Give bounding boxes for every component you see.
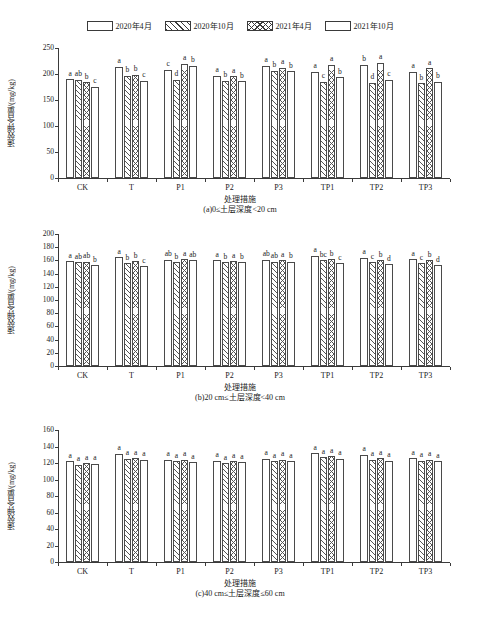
x-axis-category-p2: P2: [208, 567, 252, 576]
y-axis-tick-label: 140: [24, 270, 54, 278]
significance-label: b: [357, 55, 371, 63]
bar-p3-s2: [279, 68, 287, 178]
bar-ck-s0: [66, 261, 74, 366]
bar-p2-s3: [238, 262, 246, 366]
significance-label: a: [423, 59, 437, 67]
bar-p1-s0: [164, 460, 172, 562]
x-axis-category-tp1: TP1: [306, 371, 350, 380]
bar-p3-s2: [279, 460, 287, 562]
bar-p3-s0: [262, 260, 270, 366]
bar-tp1-s0: [311, 72, 319, 178]
legend-swatch-blank-2020-04: [87, 21, 113, 31]
significance-label: ab: [186, 251, 200, 259]
figure-page: 2020年4月 2020年10月 2021年4月 2021年10月 速效钾含量/…: [0, 0, 480, 619]
legend-label-2: 2021年4月: [276, 20, 312, 31]
y-axis-tick-label: 50: [24, 148, 54, 156]
y-axis-tick-label: 20: [24, 349, 54, 357]
bar-p3-s2: [279, 260, 287, 366]
x-axis-tick: [352, 367, 353, 370]
bar-p2-s2: [230, 261, 238, 366]
significance-label: c: [137, 71, 151, 79]
x-axis-tick: [450, 563, 451, 566]
significance-label: a: [284, 452, 298, 460]
bar-t-s0: [115, 67, 123, 178]
significance-label: a: [308, 62, 322, 70]
panel-caption: (c)40 cm≤土层深度≤60 cm: [0, 587, 480, 598]
bar-tp2-s3: [385, 264, 393, 366]
y-axis-tick-label: 0: [24, 558, 54, 566]
x-axis-category-tp3: TP3: [404, 371, 448, 380]
bar-tp1-s1: [320, 457, 328, 562]
bar-tp1-s3: [336, 263, 344, 366]
bar-tp2-s3: [385, 461, 393, 563]
y-axis-tick: [55, 496, 58, 497]
significance-label: a: [112, 57, 126, 65]
x-axis-category-tp1: TP1: [306, 567, 350, 576]
x-axis-tick: [450, 179, 451, 182]
bar-p3-s3: [287, 71, 295, 178]
bar-tp1-s3: [336, 459, 344, 562]
y-axis-tick-label: 20: [24, 542, 54, 550]
bar-tp3-s2: [426, 460, 434, 562]
y-axis-tick-label: 0: [24, 174, 54, 182]
bar-p3-s1: [271, 461, 279, 562]
x-axis-category-t: T: [110, 183, 154, 192]
y-axis-tick-label: 60: [24, 509, 54, 517]
panel-caption: (b)20 cm≤土层深度<40 cm: [0, 391, 480, 402]
y-axis-tick: [55, 152, 58, 153]
bar-t-s2: [132, 75, 140, 179]
bar-tp3-s0: [409, 259, 417, 366]
significance-label: a: [382, 451, 396, 459]
significance-label: b: [431, 72, 445, 80]
legend-swatch-cross-2021-04: [247, 21, 273, 31]
bar-p3-s1: [271, 71, 279, 178]
y-axis-tick: [55, 74, 58, 75]
y-axis-tick-label: 80: [24, 309, 54, 317]
y-axis-tick-label: 200: [24, 230, 54, 238]
bar-t-s3: [140, 460, 148, 562]
bar-tp1-s2: [328, 259, 336, 366]
bar-t-s1: [124, 263, 132, 366]
legend-swatch-hatch-2020-10: [165, 21, 191, 31]
x-axis-tick: [254, 179, 255, 182]
y-axis-tick-label: 0: [24, 362, 54, 370]
legend-label-3: 2021年10月: [354, 20, 394, 31]
bar-p1-s0: [164, 260, 172, 366]
significance-label: a: [137, 450, 151, 458]
y-axis-tick: [55, 430, 58, 431]
x-axis-tick: [58, 179, 59, 182]
significance-label: c: [88, 77, 102, 85]
x-axis-tick: [303, 563, 304, 566]
y-axis-tick-label: 60: [24, 322, 54, 330]
y-axis-tick: [55, 546, 58, 547]
x-axis-category-p3: P3: [257, 183, 301, 192]
chart-panel-b: 速效钾含量/(mg/kg)020406080100120140160180200…: [0, 224, 480, 408]
significance-label: b: [235, 72, 249, 80]
significance-label: a: [235, 453, 249, 461]
significance-label: a: [325, 55, 339, 63]
bar-p2-s1: [222, 463, 230, 562]
bar-p3-s3: [287, 262, 295, 366]
bar-p2-s2: [230, 76, 238, 178]
y-axis-tick-label: 120: [24, 283, 54, 291]
y-axis-tick: [55, 274, 58, 275]
significance-label: b: [284, 62, 298, 70]
x-axis-tick: [450, 367, 451, 370]
significance-label: b: [333, 68, 347, 76]
bar-t-s1: [124, 459, 132, 562]
bar-p3-s0: [262, 66, 270, 178]
y-axis-tick: [55, 48, 58, 49]
y-axis-line: [58, 48, 59, 178]
y-axis-tick: [55, 529, 58, 530]
x-axis-category-p1: P1: [159, 371, 203, 380]
significance-label: a: [186, 453, 200, 461]
x-axis-category-tp3: TP3: [404, 567, 448, 576]
significance-label: b: [186, 56, 200, 64]
y-axis-tick-label: 160: [24, 426, 54, 434]
y-axis-label: 速效钾含量/(mg/kg): [6, 430, 17, 562]
significance-label: a: [431, 452, 445, 460]
bar-ck-s3: [91, 87, 99, 179]
bar-p1-s2: [181, 64, 189, 178]
bar-ck-s2: [83, 262, 91, 366]
y-axis-tick: [55, 100, 58, 101]
